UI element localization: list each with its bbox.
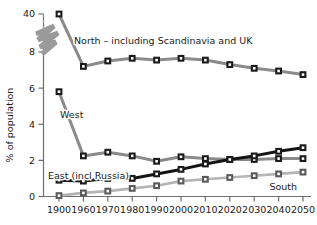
data-point-marker-center: [180, 180, 183, 183]
data-point-marker-center: [131, 177, 134, 180]
data-point-marker-center: [58, 13, 61, 16]
data-point-marker-center: [302, 157, 305, 160]
data-point-marker-center: [180, 57, 183, 60]
series-label-north: North – including Scandinavia and UK: [74, 35, 253, 46]
data-point-marker-center: [204, 157, 207, 160]
x-tick-label: 1900: [47, 204, 71, 215]
data-point-marker-center: [131, 155, 134, 158]
data-point-marker-center: [58, 90, 61, 93]
data-point-marker-center: [302, 171, 305, 174]
data-point-marker-center: [229, 176, 232, 179]
data-point-marker-center: [204, 178, 207, 181]
x-tick-label: 2040: [267, 204, 291, 215]
data-point-marker-center: [155, 184, 158, 187]
data-point-marker-center: [253, 155, 256, 158]
x-tick-label: 2020: [218, 204, 242, 215]
data-point-marker-center: [277, 173, 280, 176]
data-point-marker-center: [302, 146, 305, 149]
series-label-west: West: [60, 109, 84, 120]
data-point-marker-center: [82, 155, 85, 158]
chart-container: 0246840 19001960197019801990200020102020…: [0, 0, 317, 225]
data-point-marker-center: [107, 190, 110, 193]
y-tick-label: 40: [23, 8, 35, 19]
y-tick-label: 4: [29, 119, 35, 130]
x-tick-label: 1980: [120, 204, 144, 215]
data-point-marker-center: [302, 73, 305, 76]
data-point-marker-center: [204, 59, 207, 62]
x-tick-label: 1960: [71, 204, 95, 215]
data-point-marker-center: [155, 59, 158, 62]
x-tick-label: 1990: [145, 204, 169, 215]
y-tick-label: 6: [29, 83, 35, 94]
data-point-marker-center: [229, 158, 232, 161]
data-point-marker-center: [229, 63, 232, 66]
data-point-marker-center: [180, 168, 183, 171]
y-tick-label: 2: [29, 155, 35, 166]
data-point-marker-center: [107, 60, 110, 63]
data-point-marker-center: [82, 192, 85, 195]
data-point-marker-center: [180, 156, 183, 159]
y-axis-title: % of population: [4, 88, 15, 163]
data-point-marker-center: [131, 187, 134, 190]
data-point-marker-center: [82, 65, 85, 68]
data-point-marker-center: [58, 194, 61, 197]
data-point-marker-center: [155, 173, 158, 176]
y-tick-label: 0: [29, 191, 35, 202]
x-tick-label: 2000: [169, 204, 193, 215]
data-point-marker-center: [277, 157, 280, 160]
data-point-marker-center: [204, 163, 207, 166]
data-point-marker-center: [253, 174, 256, 177]
x-tick-label: 2010: [193, 204, 217, 215]
x-tick-label: 1970: [96, 204, 120, 215]
series-label-south: South: [269, 181, 297, 192]
series-label-east-incl-russia: East (incl Russia): [48, 170, 129, 181]
data-point-marker-center: [253, 67, 256, 70]
data-point-marker-center: [131, 57, 134, 60]
x-tick-label: 2030: [242, 204, 266, 215]
x-tick-label: 2050: [291, 204, 315, 215]
y-tick-label: 8: [29, 46, 35, 57]
data-point-marker-center: [277, 70, 280, 73]
data-point-marker-center: [277, 150, 280, 153]
line-chart: 0246840 19001960197019801990200020102020…: [0, 0, 317, 225]
data-point-marker-center: [155, 160, 158, 163]
data-point-marker-center: [107, 151, 110, 154]
